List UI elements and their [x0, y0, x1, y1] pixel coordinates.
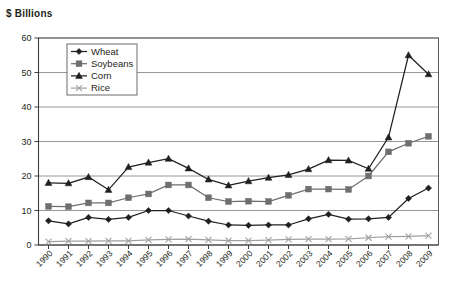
diamond-marker — [145, 207, 151, 213]
square-marker — [126, 195, 132, 201]
x-tick-label: 2004 — [314, 248, 335, 269]
series-soybeans — [46, 133, 432, 209]
triangle-marker — [405, 52, 412, 58]
diamond-marker — [345, 216, 351, 222]
square-marker — [76, 61, 82, 67]
diamond-marker — [285, 222, 291, 228]
x-tick-label: 2007 — [374, 248, 395, 269]
square-marker — [406, 140, 412, 146]
square-marker — [386, 149, 392, 155]
square-marker — [246, 198, 252, 204]
line-chart-plot: 0102030405060 19901991199219931994199519… — [0, 0, 453, 288]
diamond-marker — [105, 216, 111, 222]
series-wheat — [45, 185, 431, 228]
diamond-marker — [165, 207, 171, 213]
chart-legend: WheatSoybeansCornRice — [67, 44, 137, 95]
square-marker — [306, 186, 312, 192]
diamond-marker — [185, 213, 191, 219]
x-tick-label: 1992 — [74, 248, 95, 269]
x-tick-label: 1998 — [194, 248, 215, 269]
square-marker — [146, 191, 152, 197]
square-marker — [226, 199, 232, 205]
diamond-marker — [305, 216, 311, 222]
y-tick-label: 60 — [21, 33, 31, 43]
diamond-marker — [325, 211, 331, 217]
series-rice — [46, 233, 432, 245]
x-tick-label: 2008 — [394, 248, 415, 269]
legend-label: Soybeans — [91, 58, 134, 69]
square-marker — [186, 182, 192, 188]
x-tick-label: 2006 — [354, 248, 375, 269]
y-tick-label: 50 — [21, 68, 31, 78]
square-marker — [426, 133, 432, 139]
x-tick-label: 1995 — [134, 248, 155, 269]
y-tick-label: 10 — [21, 206, 31, 216]
square-marker — [326, 186, 332, 192]
x-axis-ticks: 1990199119921993199419951996199719981999… — [34, 245, 435, 269]
diamond-marker — [365, 216, 371, 222]
x-tick-label: 2005 — [334, 248, 355, 269]
legend-label: Corn — [91, 70, 112, 81]
triangle-marker — [205, 176, 212, 182]
diamond-marker — [265, 222, 271, 228]
square-marker — [46, 203, 52, 209]
diamond-marker — [85, 214, 91, 220]
diamond-marker — [245, 222, 251, 228]
x-tick-label: 2003 — [294, 248, 315, 269]
square-marker — [266, 199, 272, 205]
square-marker — [66, 204, 72, 210]
y-tick-label: 30 — [21, 137, 31, 147]
legend-label: Rice — [91, 82, 110, 93]
chart-container: $ Billions 0102030405060 199019911992199… — [0, 0, 453, 288]
x-tick-label: 1990 — [34, 248, 55, 269]
y-tick-label: 40 — [21, 102, 31, 112]
triangle-marker — [165, 155, 172, 161]
y-tick-label: 0 — [26, 240, 31, 250]
x-tick-label: 2002 — [274, 248, 295, 269]
diamond-marker — [205, 218, 211, 224]
y-axis-ticks: 0102030405060 — [21, 33, 38, 250]
x-tick-label: 2000 — [234, 248, 255, 269]
x-tick-label: 1991 — [54, 248, 75, 269]
square-marker — [86, 200, 92, 206]
diamond-marker — [45, 218, 51, 224]
diamond-marker — [425, 185, 431, 191]
square-marker — [106, 200, 112, 206]
diamond-marker — [225, 222, 231, 228]
triangle-marker — [85, 173, 92, 179]
square-marker — [206, 195, 212, 201]
square-marker — [366, 173, 372, 179]
x-tick-label: 2009 — [414, 248, 435, 269]
triangle-marker — [385, 134, 392, 140]
x-tick-label: 1996 — [154, 248, 175, 269]
x-tick-label: 1993 — [94, 248, 115, 269]
square-marker — [286, 192, 292, 198]
x-tick-label: 2001 — [254, 248, 275, 269]
y-tick-label: 20 — [21, 171, 31, 181]
square-marker — [166, 182, 172, 188]
x-tick-label: 1994 — [114, 248, 135, 269]
x-tick-label: 1999 — [214, 248, 235, 269]
diamond-marker — [125, 214, 131, 220]
diamond-marker — [65, 221, 71, 227]
square-marker — [346, 187, 352, 193]
legend-label: Wheat — [91, 46, 119, 57]
x-tick-label: 1997 — [174, 248, 195, 269]
